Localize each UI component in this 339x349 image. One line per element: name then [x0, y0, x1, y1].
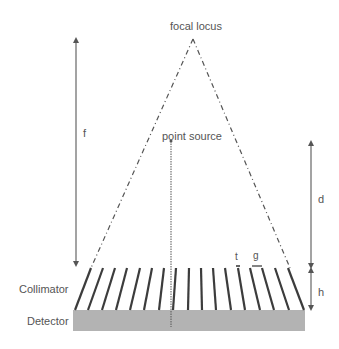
focal-locus-label: focal locus [170, 21, 222, 32]
t-label: t [235, 252, 238, 262]
point-source-label: point source [162, 131, 222, 142]
diagram-graphics [0, 0, 339, 349]
collimator-label: Collimator [19, 284, 69, 295]
cone-left-edge [91, 39, 193, 268]
d-label: d [318, 194, 324, 205]
h-label: h [318, 287, 324, 298]
f-label: f [83, 128, 86, 139]
detector-block [73, 310, 305, 331]
collimator-septa [75, 268, 304, 310]
g-label: g [253, 251, 259, 261]
cone-right-edge [193, 39, 290, 268]
collimator-diagram: focal locus point source f d h t g Colli… [0, 0, 339, 349]
detector-label: Detector [27, 316, 69, 327]
